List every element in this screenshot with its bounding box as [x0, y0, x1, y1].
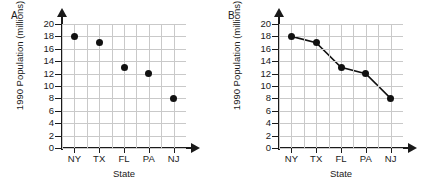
y-axis-tick — [272, 111, 279, 112]
gridline-vertical — [161, 24, 162, 148]
data-point — [121, 64, 128, 71]
gridline-vertical — [304, 24, 305, 148]
data-point — [362, 70, 369, 77]
y-axis-tick — [272, 86, 279, 87]
panel-b: B. 1990 Population (millions) State 0246… — [217, 0, 434, 192]
gridline-vertical — [87, 24, 88, 148]
data-point — [338, 64, 345, 71]
y-axis-tick-label: 18 — [233, 31, 271, 41]
gridline-vertical — [353, 24, 354, 148]
y-axis-tick-label: 4 — [16, 118, 54, 128]
y-axis-tick-label: 20 — [16, 19, 54, 29]
data-point — [288, 33, 295, 40]
panel-b-y-axis-arrow-icon — [274, 8, 284, 17]
y-axis-tick-label: 10 — [16, 81, 54, 91]
data-point — [96, 39, 103, 46]
gridline-vertical — [291, 24, 292, 148]
data-point — [387, 95, 394, 102]
y-axis-tick — [272, 49, 279, 50]
y-axis-tick — [55, 61, 62, 62]
y-axis-tick — [55, 136, 62, 137]
gridline-vertical — [391, 24, 392, 148]
y-axis-tick-label: 0 — [16, 143, 54, 153]
y-axis-tick — [272, 74, 279, 75]
y-axis-tick — [272, 24, 279, 25]
y-axis-tick — [55, 111, 62, 112]
y-axis-tick-label: 18 — [16, 31, 54, 41]
panel-b-x-axis-title: State — [279, 168, 403, 179]
y-axis-tick-label: 10 — [233, 81, 271, 91]
y-axis-tick-label: 8 — [233, 93, 271, 103]
y-axis-tick — [55, 123, 62, 124]
gridline-vertical — [378, 24, 379, 148]
y-axis-tick — [272, 98, 279, 99]
panel-b-x-axis-arrow-icon — [408, 143, 417, 153]
y-axis-tick — [55, 36, 62, 37]
y-axis-tick-label: 14 — [233, 56, 271, 66]
y-axis-tick-label: 12 — [16, 69, 54, 79]
y-axis-tick-label: 14 — [16, 56, 54, 66]
y-axis-tick-label: 2 — [233, 131, 271, 141]
y-axis-tick-label: 4 — [233, 118, 271, 128]
y-axis-tick-label: 16 — [233, 44, 271, 54]
y-axis-tick-label: 12 — [233, 69, 271, 79]
panel-b-plot-area — [279, 24, 403, 148]
gridline-vertical — [366, 24, 367, 148]
y-axis-tick — [55, 74, 62, 75]
y-axis-tick-label: 0 — [233, 143, 271, 153]
gridline-vertical — [74, 24, 75, 148]
y-axis-tick-label: 6 — [16, 106, 54, 116]
panel-a: A. 1990 Population (millions) State 0246… — [0, 0, 217, 192]
gridline-vertical — [174, 24, 175, 148]
panel-a-y-axis-arrow-icon — [57, 8, 67, 17]
gridline-vertical — [112, 24, 113, 148]
y-axis-tick-label: 16 — [16, 44, 54, 54]
figure-canvas: A. 1990 Population (millions) State 0246… — [0, 0, 434, 192]
gridline-vertical — [329, 24, 330, 148]
y-axis-tick — [272, 136, 279, 137]
y-axis-tick — [55, 98, 62, 99]
y-axis-tick — [55, 24, 62, 25]
y-axis-tick — [55, 86, 62, 87]
x-axis-tick-label: NJ — [376, 154, 406, 164]
gridline-vertical — [136, 24, 137, 148]
data-point — [71, 33, 78, 40]
data-point — [145, 70, 152, 77]
x-axis-tick-label: NJ — [159, 154, 189, 164]
data-point — [313, 39, 320, 46]
y-axis-tick — [272, 61, 279, 62]
gridline-vertical — [124, 24, 125, 148]
y-axis-tick-label: 6 — [233, 106, 271, 116]
y-axis-tick-label: 2 — [16, 131, 54, 141]
y-axis-tick-label: 8 — [16, 93, 54, 103]
data-point — [170, 95, 177, 102]
panel-a-x-axis-arrow-icon — [191, 143, 200, 153]
y-axis-tick — [55, 49, 62, 50]
gridline-vertical — [279, 24, 280, 148]
y-axis-tick-label: 20 — [233, 19, 271, 29]
gridline-vertical — [341, 24, 342, 148]
y-axis-tick — [272, 36, 279, 37]
panel-a-plot-area — [62, 24, 186, 148]
y-axis-tick — [272, 148, 279, 149]
panel-a-x-axis-title: State — [62, 168, 186, 179]
y-axis-tick — [55, 148, 62, 149]
gridline-vertical — [149, 24, 150, 148]
gridline-vertical — [62, 24, 63, 148]
y-axis-tick — [272, 123, 279, 124]
